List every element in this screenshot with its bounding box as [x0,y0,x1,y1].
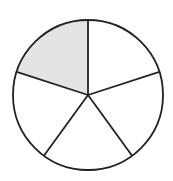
circle-svg [0,0,173,181]
fraction-circle-diagram: 1/5 [0,0,173,181]
